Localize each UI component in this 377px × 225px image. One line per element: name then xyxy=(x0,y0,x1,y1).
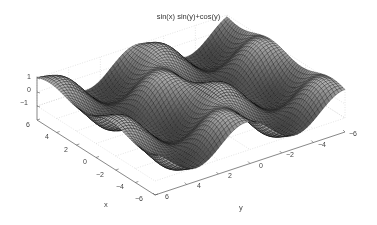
z-tick-neg1: −1 xyxy=(20,99,28,106)
chart-title: sin(x) sin(y)+cos(y) xyxy=(0,12,377,21)
x-tick-2: 2 xyxy=(64,146,68,153)
x-tick-neg6: −6 xyxy=(135,195,143,202)
z-tick-1: 1 xyxy=(27,73,31,80)
y-tick-neg4: −4 xyxy=(318,141,326,148)
y-tick-neg2: −2 xyxy=(286,151,294,158)
y-tick-neg6: −6 xyxy=(349,130,357,137)
x-tick-6: 6 xyxy=(26,121,30,128)
z-tick-0: 0 xyxy=(27,86,31,93)
x-tick-4: 4 xyxy=(45,133,49,140)
y-tick-2: 2 xyxy=(228,172,232,179)
surface-plot-canvas xyxy=(0,0,377,225)
x-tick-0: 0 xyxy=(83,158,87,165)
y-tick-4: 4 xyxy=(197,182,201,189)
y-tick-0: 0 xyxy=(259,162,263,169)
x-axis-label: x xyxy=(104,200,108,209)
x-tick-neg2: −2 xyxy=(96,171,104,178)
x-tick-neg4: −4 xyxy=(116,183,124,190)
y-tick-6: 6 xyxy=(165,193,169,200)
y-axis-label: y xyxy=(239,203,243,212)
